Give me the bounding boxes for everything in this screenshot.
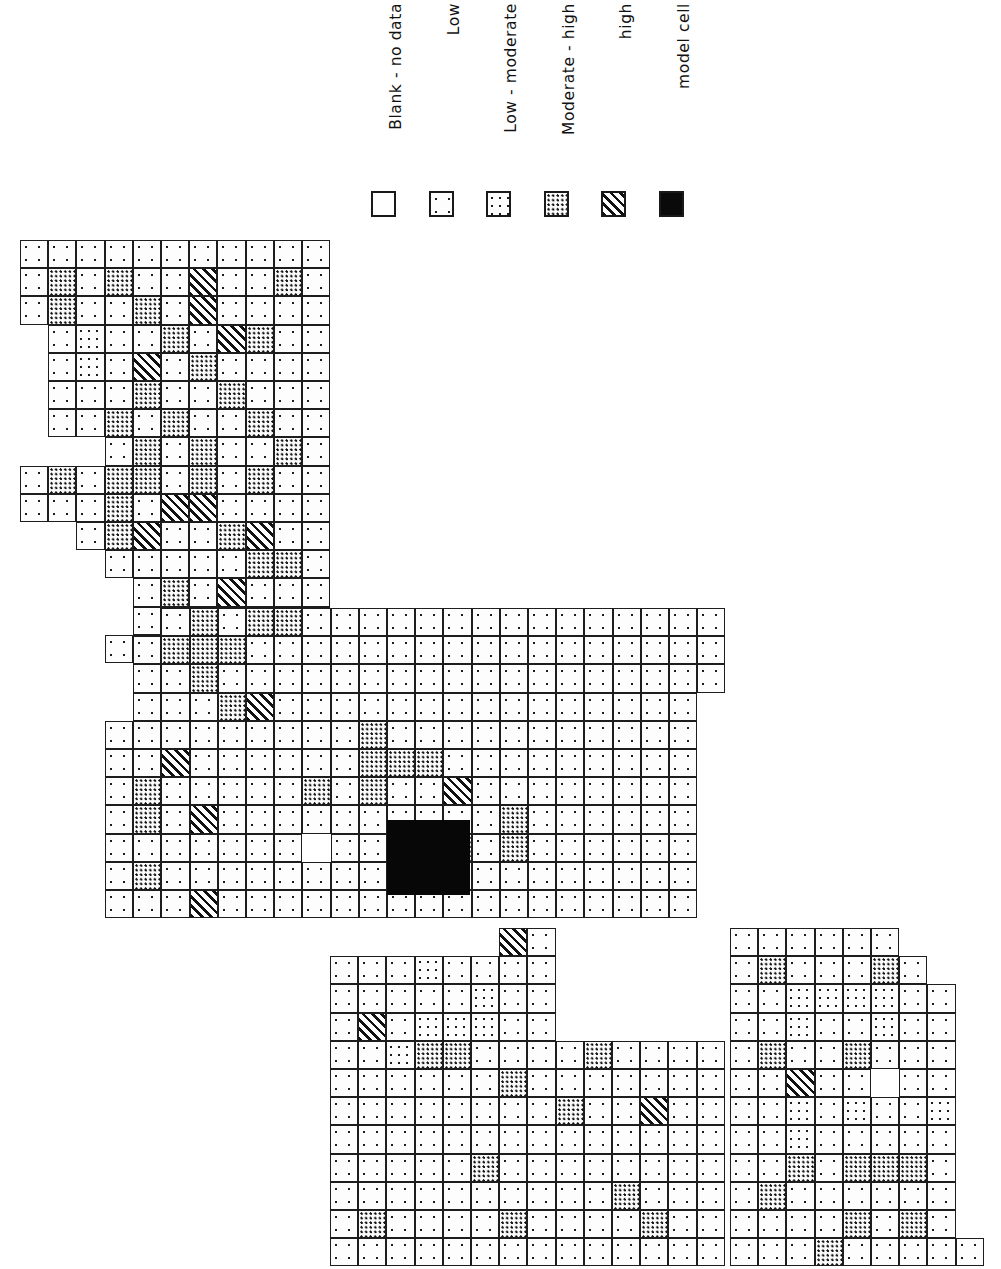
grid-cell [527,1013,555,1041]
grid-cell [556,664,584,692]
grid-cell [387,777,415,805]
grid-cell [246,325,274,353]
grid-cell [500,890,528,918]
grid-cell [246,550,274,578]
grid-cell [189,437,217,465]
grid-cell [815,1238,843,1266]
grid-cell [386,1013,414,1041]
grid-cell [758,1013,786,1041]
grid-cell [330,1154,358,1182]
grid-cell [331,777,359,805]
grid-cell [161,693,189,721]
grid-cell [302,296,330,324]
grid-cell [20,240,48,268]
grid-cell [133,466,161,494]
grid-cell [443,1210,471,1238]
grid-cell [443,1154,471,1182]
grid-cell [302,777,330,805]
grid-cell [471,1041,499,1069]
grid-cell [274,381,302,409]
grid-cell [499,1154,527,1182]
grid-cell [527,1238,555,1266]
grid-cell [189,381,217,409]
grid-cell [274,721,302,749]
grid-cell [871,1125,899,1153]
grid-cell [190,890,218,918]
grid-cell [843,1210,871,1238]
grid-cell [190,862,218,890]
grid-cell [76,494,104,522]
grid-cell [161,777,189,805]
grid-cell [133,805,161,833]
grid-cell [76,296,104,324]
grid-cell [133,296,161,324]
grid-cell [302,409,330,437]
swatch-model-cell [659,191,684,217]
grid-cell [612,1154,640,1182]
grid-cell [246,578,274,606]
grid-cell [217,578,245,606]
grid-cell [133,664,161,692]
grid-cell [217,466,245,494]
grid-cell [274,862,302,890]
grid-cell [899,984,927,1012]
grid-cell [76,522,104,550]
grid-cell [330,956,358,984]
grid-cell [612,1041,640,1069]
grid-cell [443,1041,471,1069]
grid-cell [786,956,814,984]
grid-cell [899,1238,927,1266]
grid-cell [584,664,612,692]
grid-cell [899,1125,927,1153]
grid-cell [274,664,302,692]
grid-cell [386,1238,414,1266]
grid-cell [302,693,330,721]
grid-cell [640,1041,668,1069]
grid-cell [528,664,556,692]
grid-cell [640,1125,668,1153]
grid-cell [528,862,556,890]
swatch-low-moderate [486,191,511,217]
grid-cell [302,608,330,636]
grid-cell [669,805,697,833]
grid-cell [386,1041,414,1069]
grid-cell [786,984,814,1012]
grid-cell [786,1182,814,1210]
grid-cell [246,409,274,437]
grid-cell [133,834,161,862]
grid-cell [786,1238,814,1266]
grid-cell [76,381,104,409]
grid-cell [843,928,871,956]
grid-cell [387,608,415,636]
grid-cell [472,834,500,862]
grid-cell [815,1182,843,1210]
grid-cell [815,1097,843,1125]
grid-cell [786,928,814,956]
grid-cell [246,749,274,777]
grid-cell [668,1238,696,1266]
grid-cell [246,862,274,890]
grid-cell [612,1125,640,1153]
grid-cell [48,240,76,268]
grid-cell [730,1238,758,1266]
grid-cell [358,1041,386,1069]
grid-cell [105,805,133,833]
grid-cell [871,1013,899,1041]
grid-cell [871,984,899,1012]
grid-cell [415,1238,443,1266]
grid-cell [843,956,871,984]
grid-cell [527,1069,555,1097]
grid-cell [190,693,218,721]
grid-cell [76,466,104,494]
legend-item-lowmod: Low - moderate [481,0,541,235]
grid-cell [415,608,443,636]
grid-cell [815,984,843,1012]
grid-cell [443,1125,471,1153]
grid-cell [217,296,245,324]
grid-cell [697,608,725,636]
grid-cell [556,693,584,721]
grid-cell [302,664,330,692]
grid-cell [217,353,245,381]
grid-cell [302,353,330,381]
grid-cell [613,664,641,692]
